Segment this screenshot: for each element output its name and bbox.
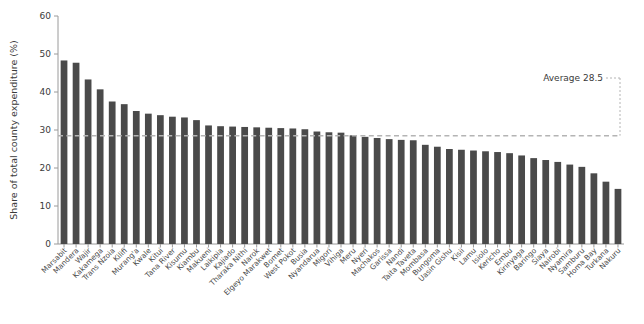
bar	[542, 160, 549, 244]
bar	[458, 150, 465, 244]
bar	[109, 102, 116, 245]
bar	[289, 128, 296, 244]
y-tick-label: 50	[40, 49, 52, 59]
bar	[434, 147, 441, 244]
bar	[350, 135, 357, 244]
bar	[506, 153, 513, 244]
bar	[530, 158, 537, 244]
bar	[591, 173, 598, 244]
y-tick-label: 20	[40, 163, 52, 173]
bar	[133, 111, 140, 244]
bar	[265, 128, 272, 244]
bar	[374, 138, 381, 244]
y-axis-title: Share of total county expenditure (%)	[8, 40, 19, 219]
bar	[97, 89, 104, 244]
bar	[603, 182, 610, 244]
bar	[338, 133, 345, 244]
bar	[241, 127, 248, 244]
bar	[157, 115, 164, 244]
bar-chart-figure: 0102030405060Share of total county expen…	[0, 0, 644, 324]
bar	[217, 126, 224, 244]
y-tick-label: 30	[40, 125, 52, 135]
bar	[277, 128, 284, 244]
bar	[193, 120, 200, 244]
bar	[326, 132, 333, 244]
bar	[302, 129, 309, 244]
bar	[121, 104, 128, 244]
bar	[398, 140, 405, 244]
bar	[145, 114, 152, 244]
y-tick-label: 40	[40, 87, 52, 97]
bar	[482, 151, 489, 244]
bar	[410, 140, 417, 244]
bar	[362, 137, 369, 244]
chart-canvas: 0102030405060Share of total county expen…	[0, 0, 644, 324]
bar	[386, 139, 393, 244]
bar	[615, 189, 622, 244]
bar	[470, 151, 477, 244]
y-tick-label: 10	[40, 201, 52, 211]
bar	[73, 63, 80, 244]
bar	[554, 162, 561, 244]
y-tick-label: 0	[45, 239, 51, 249]
bar	[314, 132, 321, 244]
average-annotation-label: Average 28.5	[543, 73, 603, 83]
bar	[229, 127, 236, 244]
bar	[578, 167, 585, 244]
bar	[205, 125, 212, 244]
bar	[566, 165, 573, 244]
bar	[422, 145, 429, 244]
y-tick-label: 60	[40, 11, 52, 21]
bar	[446, 149, 453, 244]
bar	[85, 79, 92, 244]
bar	[518, 155, 525, 244]
bar	[61, 60, 68, 244]
bar	[253, 127, 260, 244]
bar	[494, 152, 501, 244]
